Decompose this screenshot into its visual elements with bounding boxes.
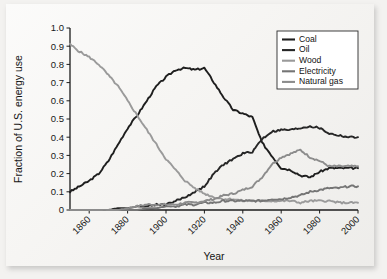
y-tick-label: 0.5 — [51, 113, 64, 124]
y-tick-label: 1.0 — [51, 22, 64, 33]
x-tick-label: 1960 — [262, 214, 285, 237]
x-tick-label: 1980 — [300, 214, 323, 237]
legend: CoalOilWoodElectricityNatural gas — [277, 31, 358, 89]
x-tick-label: 1860 — [70, 214, 93, 237]
legend-label-oil: Oil — [299, 44, 310, 54]
x-tick-label: 1940 — [223, 214, 246, 237]
y-axis-title: Fraction of U.S. energy use — [12, 55, 24, 183]
y-tick-label: 0.8 — [51, 59, 64, 70]
y-tick-label: 0.2 — [51, 168, 64, 179]
x-tick-label: 1920 — [185, 214, 208, 237]
y-tick-label: 0 — [59, 204, 64, 215]
y-tick-label: 0.7 — [51, 77, 64, 88]
energy-use-line-chart: 00.10.20.30.40.50.60.70.80.91.0186018801… — [0, 0, 387, 279]
y-tick-label: 0.3 — [51, 150, 64, 161]
x-axis-title: Year — [203, 250, 225, 262]
legend-label-wood: Wood — [299, 55, 322, 65]
x-tick-label: 1880 — [108, 214, 131, 237]
y-tick-label: 0.4 — [51, 132, 64, 143]
figure-root: 00.10.20.30.40.50.60.70.80.91.0186018801… — [0, 0, 387, 279]
legend-label-coal: Coal — [299, 34, 317, 44]
y-tick-label: 0.1 — [51, 186, 64, 197]
legend-label-natural-gas: Natural gas — [299, 76, 343, 86]
y-tick-label: 0.9 — [51, 41, 64, 52]
x-tick-label: 2000 — [339, 214, 362, 237]
legend-label-electricity: Electricity — [299, 66, 336, 76]
x-tick-label: 1900 — [147, 214, 170, 237]
y-tick-label: 0.6 — [51, 95, 64, 106]
